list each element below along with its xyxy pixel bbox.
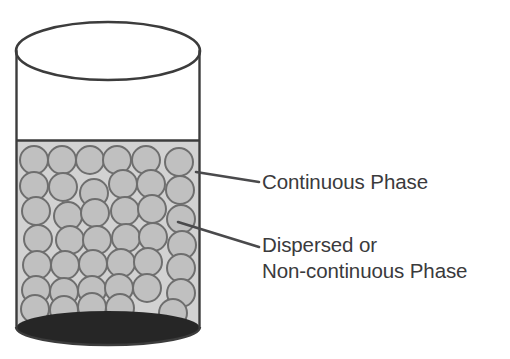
label-dispersed-phase-line2: Non-continuous Phase — [262, 258, 467, 284]
dispersed-droplet — [134, 248, 162, 276]
dispersed-droplet — [139, 223, 167, 251]
dispersed-droplet — [165, 148, 193, 176]
label-continuous-phase: Continuous Phase — [262, 169, 428, 195]
dispersed-droplet — [20, 146, 48, 174]
dispersed-droplet — [20, 172, 48, 200]
dispersed-droplet — [76, 146, 104, 174]
dispersed-droplet — [22, 197, 50, 225]
dispersed-droplet — [81, 199, 109, 227]
dispersed-droplet — [109, 170, 137, 198]
diagram-canvas — [0, 0, 510, 359]
dispersed-droplet — [49, 173, 77, 201]
emulsion-diagram: Continuous Phase Dispersed or Non-contin… — [0, 0, 510, 359]
dispersed-droplet — [133, 274, 161, 302]
dispersed-droplet — [166, 176, 194, 204]
label-continuous-phase-text: Continuous Phase — [262, 170, 428, 193]
dispersed-droplet — [138, 195, 166, 223]
label-dispersed-phase: Dispersed or Non-continuous Phase — [262, 232, 467, 284]
dispersed-droplet — [79, 250, 107, 278]
dispersed-droplet — [51, 251, 79, 279]
dispersed-droplet — [107, 249, 135, 277]
dispersed-droplet — [137, 170, 165, 198]
dispersed-droplet — [167, 205, 195, 233]
dispersed-droplet — [48, 146, 76, 174]
label-dispersed-phase-line1: Dispersed or — [262, 232, 467, 258]
dispersed-droplet — [24, 225, 52, 253]
dispersed-droplet — [111, 197, 139, 225]
dispersed-droplet — [23, 251, 51, 279]
dispersed-droplet — [56, 226, 84, 254]
dispersed-droplet — [167, 254, 195, 282]
leader-line-continuous-phase — [196, 172, 259, 182]
dispersed-droplet — [112, 224, 140, 252]
